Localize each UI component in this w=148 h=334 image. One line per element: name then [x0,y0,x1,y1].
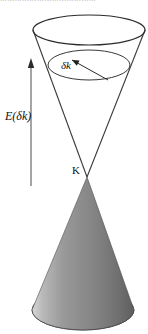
delta-k-arrowhead [72,60,80,66]
upper-cone-right-edge [87,30,145,177]
delta-k-label: δk [61,60,71,71]
upper-cone [33,15,145,177]
lower-cone [32,177,134,330]
dirac-point-label: K [72,165,80,176]
upper-cone-left-edge [33,30,87,177]
energy-label: E(δk) [5,110,31,122]
upper-cone-rim-ellipse [33,15,145,45]
lower-cone-body [32,177,134,330]
energy-arrowhead [28,58,34,68]
delta-k-leader-arrow [72,60,108,80]
dirac-cone-figure: ………………………………… [0,0,148,334]
